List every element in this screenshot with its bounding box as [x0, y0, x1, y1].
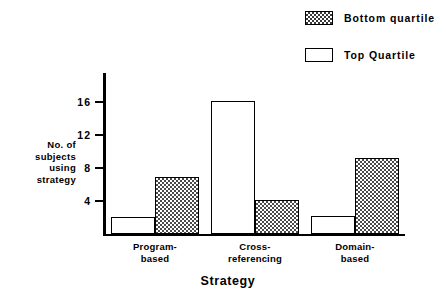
bar-bottom-quartile — [355, 158, 399, 234]
x-axis-category-label: Domain-based — [335, 241, 374, 265]
bars-layer — [0, 0, 446, 234]
bar-top-quartile — [111, 217, 155, 233]
x-axis-category-label-line-2: based — [335, 253, 374, 265]
bar-top-quartile — [211, 101, 255, 233]
x-axis-category-label: Cross-referencing — [228, 241, 282, 265]
x-axis-title-text: Strategy — [201, 274, 256, 288]
bar-chart: 481216 No. of subjects using strategy Pr… — [0, 0, 446, 301]
x-axis-line — [103, 234, 405, 237]
x-axis-category-label-line-1: Program- — [133, 241, 177, 253]
x-axis-category-label-line-1: Cross- — [228, 241, 282, 253]
x-axis-category-label-line-2: based — [133, 253, 177, 265]
bar-bottom-quartile — [255, 200, 299, 234]
x-axis-category-label-line-2: referencing — [228, 253, 282, 265]
bar-bottom-quartile — [155, 177, 199, 234]
x-axis-title: Strategy — [0, 274, 446, 288]
bar-top-quartile — [311, 216, 355, 233]
x-axis-category-label-line-1: Domain- — [335, 241, 374, 253]
x-axis-category-label: Program-based — [133, 241, 177, 265]
